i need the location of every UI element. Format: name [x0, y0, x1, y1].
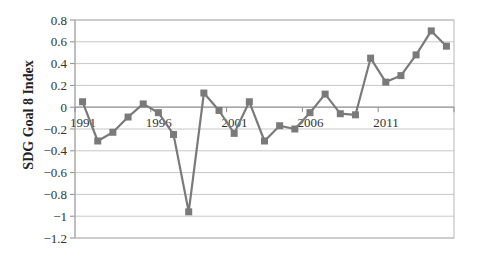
data-point-marker: [367, 55, 374, 62]
y-tick-label: −0.2: [43, 122, 67, 137]
y-tick-label: 0: [61, 100, 68, 115]
y-tick-label: −0.6: [43, 165, 67, 180]
data-point-marker: [306, 109, 313, 116]
data-point-marker: [443, 43, 450, 50]
data-point-marker: [261, 137, 268, 144]
y-tick-label: 0.8: [51, 13, 67, 28]
y-tick-label: −1: [53, 209, 67, 224]
data-point-marker: [125, 114, 132, 121]
data-point-marker: [322, 91, 329, 98]
y-tick-label: 0.6: [51, 34, 68, 49]
x-axis-ticks: [75, 107, 454, 112]
y-tick-label: −0.8: [43, 187, 67, 202]
x-tick-label: 2001: [222, 115, 248, 130]
y-tick-label: 0.2: [51, 78, 67, 93]
data-point-marker: [94, 137, 101, 144]
data-point-marker: [170, 131, 177, 138]
x-axis-tick-labels: 19911996200120062011: [70, 115, 399, 130]
data-point-marker: [216, 107, 223, 114]
data-point-marker: [382, 79, 389, 86]
y-axis-title: SDG Goal 8 Index: [21, 60, 36, 169]
data-point-marker: [276, 122, 283, 129]
y-tick-label: −0.4: [43, 143, 67, 158]
data-point-marker: [109, 129, 116, 136]
data-point-marker: [352, 111, 359, 118]
line-chart: 0.80.60.40.20−0.2−0.4−0.6−0.8−1−1.2 1991…: [0, 0, 477, 255]
data-point-marker: [337, 110, 344, 117]
data-point-marker: [428, 27, 435, 34]
y-axis-tick-labels: 0.80.60.40.20−0.2−0.4−0.6−0.8−1−1.2: [43, 13, 67, 246]
data-point-marker: [155, 109, 162, 116]
data-point-marker: [397, 72, 404, 79]
data-point-marker: [200, 90, 207, 97]
data-point-marker: [231, 130, 238, 137]
data-point-marker: [291, 126, 298, 133]
x-tick-label: 2011: [373, 115, 399, 130]
data-point-marker: [185, 208, 192, 215]
y-tick-label: −1.2: [43, 231, 67, 246]
data-point-marker: [246, 98, 253, 105]
y-tick-label: 0.4: [51, 56, 68, 71]
data-point-marker: [140, 100, 147, 107]
data-point-marker: [79, 98, 86, 105]
data-point-marker: [413, 51, 420, 58]
